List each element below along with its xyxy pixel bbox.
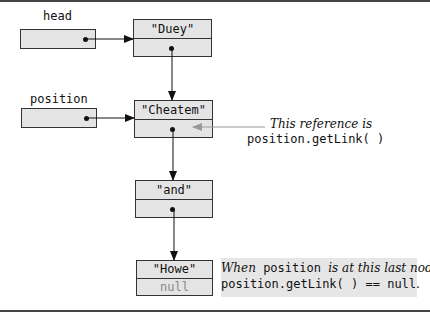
last-node-annotation-line2: position.getLink( ) == null. — [221, 277, 417, 291]
last-node-annotation: When position is at this last node, posi… — [221, 261, 417, 291]
reference-annotation-line2: position.getLink( ) — [247, 132, 384, 146]
reference-annotation-line1: This reference is — [268, 117, 398, 131]
reference-annotation: This reference is — [268, 117, 398, 131]
last-node-annotation-line1: When position is at this last node, — [221, 261, 417, 275]
